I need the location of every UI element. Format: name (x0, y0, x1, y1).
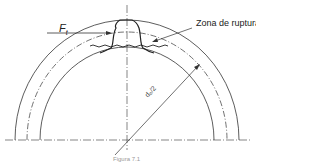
figure-caption: Figura 7.1 (113, 156, 140, 162)
tooth-profile (111, 20, 154, 53)
radius-arrow (115, 66, 198, 155)
force-label: Ft (59, 22, 68, 36)
zone-label: Zona de ruptura (196, 18, 256, 28)
zone-leader (155, 28, 192, 41)
